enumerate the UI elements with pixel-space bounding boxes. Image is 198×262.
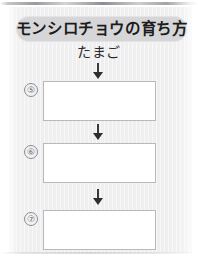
answer-box-7[interactable] <box>43 210 156 250</box>
arrow-head <box>93 133 103 140</box>
down-arrow-icon <box>92 63 104 79</box>
answer-box-5[interactable] <box>43 81 156 121</box>
item-marker-7: ⑦ <box>24 212 38 226</box>
down-arrow-icon <box>92 124 104 140</box>
arrow-head <box>93 198 103 205</box>
worksheet-content: モンシロチョウの育ち方 たまご ⑤ ⑥ ⑦ <box>0 0 198 262</box>
item-marker-6: ⑥ <box>24 145 38 159</box>
first-stage-label: たまご <box>0 45 198 59</box>
arrow-head <box>93 72 103 79</box>
worksheet-title-badge: モンシロチョウの育ち方 <box>16 16 187 42</box>
scan-bottom-margin <box>0 253 198 262</box>
item-marker-5: ⑤ <box>24 83 38 97</box>
page-title: モンシロチョウの育ち方 <box>16 21 188 37</box>
down-arrow-icon <box>92 189 104 205</box>
answer-box-6[interactable] <box>43 143 156 183</box>
